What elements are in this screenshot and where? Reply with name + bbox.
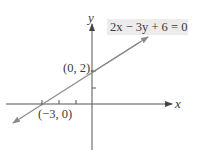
x-intercept-label: (−3, 0): [38, 108, 72, 121]
graph-line-upper-arrow: [92, 37, 148, 73]
equation-label: 2x − 3y + 6 = 0: [110, 21, 187, 34]
point-x-intercept: [41, 103, 44, 106]
y-intercept-label: (0, 2): [63, 62, 90, 75]
y-ticks: [92, 71, 96, 88]
point-y-intercept: [91, 70, 94, 73]
y-axis-label: y: [88, 11, 94, 24]
x-axis-label: x: [175, 97, 181, 110]
